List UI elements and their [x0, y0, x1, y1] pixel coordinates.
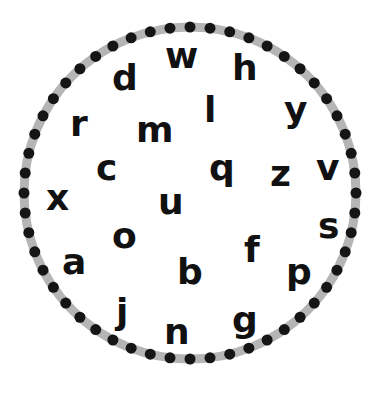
ring-dot: [145, 26, 156, 37]
ring-dot: [295, 312, 306, 323]
letter-f: f: [244, 229, 260, 270]
ring-dot: [23, 148, 34, 159]
ring-dot: [321, 282, 332, 293]
ring-dot: [279, 324, 290, 335]
ring-dot: [38, 265, 49, 276]
letter-c: c: [96, 147, 117, 188]
ring-dot: [205, 23, 216, 34]
ring-dot: [20, 167, 31, 178]
ring-dot: [346, 227, 357, 238]
ring-dot: [60, 77, 71, 88]
ring-dot: [60, 298, 71, 309]
ring-dot: [295, 63, 306, 74]
letters-group: w d h l y r m c q z v x u s o f a b p j …: [46, 35, 339, 352]
ring-dot: [23, 227, 34, 238]
ring-dot: [243, 32, 254, 43]
ring-dot: [331, 110, 342, 121]
ring-dot: [349, 208, 360, 219]
letter-z: z: [270, 153, 291, 194]
ring-dot: [309, 77, 320, 88]
ring-dot: [126, 32, 137, 43]
ring-dot: [107, 41, 118, 52]
ring-dot: [74, 312, 85, 323]
letter-x: x: [46, 177, 69, 218]
letter-s: s: [318, 205, 339, 246]
letter-v: v: [316, 147, 339, 188]
ring-dot: [309, 298, 320, 309]
letter-m: m: [136, 109, 174, 150]
ring-dot: [48, 93, 59, 104]
letter-g: g: [232, 299, 258, 340]
ring-dot: [243, 343, 254, 354]
letter-q: q: [209, 147, 235, 188]
ring-dot: [340, 129, 351, 140]
ring-dot: [90, 51, 101, 62]
letter-b: b: [177, 251, 203, 292]
ring-dot: [205, 352, 216, 363]
letter-l: l: [204, 89, 216, 130]
ring-dot: [164, 23, 175, 34]
ring-dot: [164, 352, 175, 363]
ring-dot: [90, 324, 101, 335]
letter-p: p: [286, 251, 312, 292]
ring-dot: [29, 246, 40, 257]
letter-r: r: [70, 103, 88, 144]
ring-dot: [107, 334, 118, 345]
ring-dot: [351, 188, 362, 199]
ring-dot: [279, 51, 290, 62]
ring-dot: [185, 354, 196, 365]
letter-n: n: [164, 311, 190, 352]
letter-h: h: [232, 47, 258, 88]
letter-d: d: [112, 57, 138, 98]
ring-dot: [321, 93, 332, 104]
ring-dot: [262, 41, 273, 52]
ring-dot: [29, 129, 40, 140]
ring-dot: [340, 246, 351, 257]
letter-o: o: [112, 215, 137, 256]
ring-dot: [74, 63, 85, 74]
ring-dot: [331, 265, 342, 276]
ring-dot: [48, 282, 59, 293]
ring-dot: [262, 334, 273, 345]
ring-dot: [145, 349, 156, 360]
ring-dot: [20, 208, 31, 219]
letter-w: w: [165, 35, 198, 76]
ring-dot: [346, 148, 357, 159]
letter-a: a: [62, 241, 86, 282]
letter-y: y: [284, 89, 307, 130]
letter-j: j: [114, 291, 128, 332]
ring-dot: [224, 26, 235, 37]
letter-circle: w d h l y r m c q z v x u s o f a b p j …: [0, 0, 382, 396]
ring-dot: [224, 349, 235, 360]
ring-dot: [38, 110, 49, 121]
ring-dot: [19, 188, 30, 199]
ring-dot: [126, 343, 137, 354]
ring-dot: [349, 167, 360, 178]
letter-u: u: [158, 181, 184, 222]
dotted-ring-band: [24, 27, 356, 359]
ring-dot: [185, 22, 196, 33]
